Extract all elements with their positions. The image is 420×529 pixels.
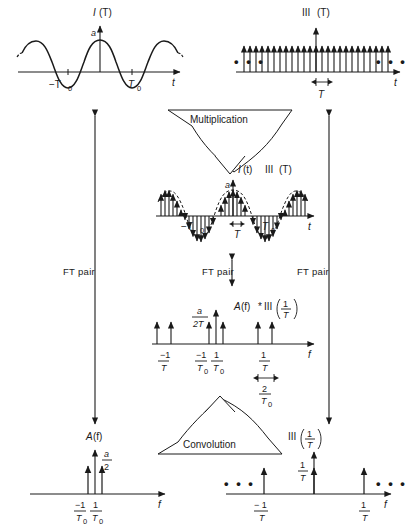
tick-posT-den: T	[262, 363, 269, 373]
spectrum-title-num: 1	[283, 299, 288, 309]
tick-posT0-sub: 0	[220, 367, 224, 376]
title-den: T	[307, 440, 314, 450]
panel-title-arg: (T)	[99, 7, 112, 18]
paren-left	[277, 299, 280, 319]
spacing-label: T	[318, 89, 325, 100]
tick-posT0-num: 1	[214, 350, 219, 360]
amp-numerator: 1	[300, 460, 305, 470]
span-arrow-right	[274, 376, 279, 381]
spacing-arrow-left	[229, 222, 233, 226]
tick-label-pos-T0: T	[262, 221, 269, 232]
ft-pair-middle: FT pair	[192, 256, 278, 290]
tick-negT0-num: −1	[196, 350, 206, 360]
tick-posT-num: 1	[261, 350, 266, 360]
panel-cosine-signal: I (T) a −T 0 T 0 t	[0, 0, 200, 105]
span-numerator: 2	[262, 384, 267, 394]
panel-title-arg: (f)	[93, 431, 102, 442]
curve-tail-left	[17, 53, 22, 57]
product-label-I: I	[238, 164, 241, 175]
paren-left	[301, 429, 304, 449]
spectrum-title-A: A	[233, 301, 241, 312]
tick-negT0-sub: 0	[204, 367, 208, 376]
amp-numerator: a	[104, 449, 109, 459]
spectrum-title-star: *	[258, 301, 262, 312]
spacing-arrow-left	[311, 80, 316, 85]
amp-denominator: T	[300, 473, 307, 483]
spectrum-title-f: (f)	[241, 301, 250, 312]
impulse-train	[244, 46, 388, 72]
ellipsis-right: • • •	[376, 54, 407, 69]
tick-label-neg-T0-sub: 0	[200, 226, 204, 235]
ft-pair-label: FT pair	[297, 266, 329, 277]
tick-pos-den: T	[92, 513, 99, 523]
panel-title-fn: I	[93, 7, 96, 18]
tick-pos-sub: 0	[99, 517, 103, 526]
tick-negT0-den: T	[197, 363, 204, 373]
amplitude-label: a	[225, 180, 230, 190]
product-label-shah: III	[265, 164, 273, 175]
panel-title-fn: III	[288, 431, 296, 442]
tick-neg-num: − 1	[254, 500, 267, 510]
product-label-t: (t)	[243, 164, 252, 175]
tick-label-neg-T0-sub: 0	[68, 84, 72, 93]
amp-denominator: 2T	[192, 319, 205, 329]
panel-title-fn: A	[85, 431, 93, 442]
tick-label-neg-T0: −T	[49, 79, 61, 90]
ft-pair-left: FT pair	[62, 110, 128, 430]
multiplication-label: Multiplication	[190, 114, 248, 125]
tick-posT0-den: T	[213, 363, 220, 373]
spectrum-title-den: T	[283, 310, 290, 320]
ellipsis-left: • • •	[224, 476, 255, 491]
spacing-label: T	[234, 229, 241, 240]
spectrum-title-shah: III	[264, 301, 272, 312]
tick-label-pos-T0-sub: 0	[137, 84, 141, 93]
x-axis-label: f	[384, 499, 388, 510]
ft-pair-label: FT pair	[202, 266, 234, 277]
x-axis-label: t	[172, 77, 176, 88]
panel-title-arg: (T)	[317, 7, 330, 18]
span-arrow-left	[253, 376, 258, 381]
curve-tail-right	[178, 53, 183, 57]
panel-title-fn: III	[302, 7, 310, 18]
tick-neg-sub: 0	[83, 517, 87, 526]
amp-numerator: a	[197, 306, 202, 316]
x-axis-label: t	[394, 77, 398, 88]
panel-shah-comb-freq: III 1 T 1 T − 1 T 1 T • • • • • • f	[216, 424, 420, 529]
paren-right	[318, 429, 321, 449]
tick-negT-num: −1	[160, 350, 170, 360]
amplitude-label: a	[91, 28, 96, 38]
amp-denominator: 2	[104, 462, 109, 472]
tick-neg-num: −1	[75, 500, 85, 510]
tick-neg-den: T	[259, 513, 266, 523]
spacing-arrow-right	[241, 222, 245, 226]
spacing-arrow-right	[328, 80, 333, 85]
ellipsis-right: • • •	[376, 476, 407, 491]
panel-shah-comb-time: T III (T) • • • • • • t	[228, 0, 420, 105]
title-num: 1	[307, 429, 312, 439]
ft-pair-right: FT pair	[296, 110, 362, 430]
tick-negT-den: T	[161, 363, 168, 373]
tick-label-pos-T0-sub: 0	[271, 226, 275, 235]
ft-pair-label: FT pair	[63, 266, 95, 277]
tick-pos-num: 1	[361, 500, 366, 510]
ellipsis-left: • • •	[234, 54, 265, 69]
spectrum-impulse-pairs	[157, 322, 272, 344]
product-label-T: (T)	[279, 164, 292, 175]
tick-label-pos-T0: T	[128, 79, 135, 90]
panel-spectrum-A-f: A (f) a 2 −1 T 0 1 T 0 f	[0, 424, 200, 529]
x-axis-label: f	[158, 499, 162, 510]
tick-neg-den: T	[76, 513, 83, 523]
tick-pos-num: 1	[93, 500, 98, 510]
tick-label-neg-T0: −T	[181, 221, 193, 232]
tick-pos-den: T	[362, 513, 369, 523]
